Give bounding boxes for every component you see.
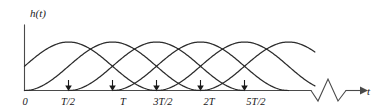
tick-arrow-3t-over-2 — [153, 80, 160, 91]
tick-label-0: 0 — [22, 97, 27, 108]
pulse-curve — [201, 42, 315, 91]
tick-label-5t-over-2: 5T/2 — [246, 97, 265, 108]
x-axis-label: t — [367, 86, 370, 97]
y-axis-label: h(t) — [30, 8, 46, 19]
waveform-figure: h(t) t 0 T/2 T 3T/2 2T 5T/2 — [0, 0, 381, 111]
tick-label-2t: 2T — [203, 97, 214, 108]
tick-label-t-over-2: T/2 — [61, 97, 75, 108]
tick-label-3t-over-2: 3T/2 — [153, 97, 172, 108]
x-axis-break-zigzag — [311, 79, 346, 101]
plot-canvas — [0, 0, 381, 111]
tick-arrow-t-over-2 — [65, 80, 72, 91]
pulse-curve — [157, 42, 315, 91]
tick-arrow-2t — [197, 80, 204, 91]
tick-arrow-t — [109, 80, 116, 91]
tick-arrow-5t-over-2 — [241, 80, 248, 91]
tick-label-t: T — [120, 97, 126, 108]
